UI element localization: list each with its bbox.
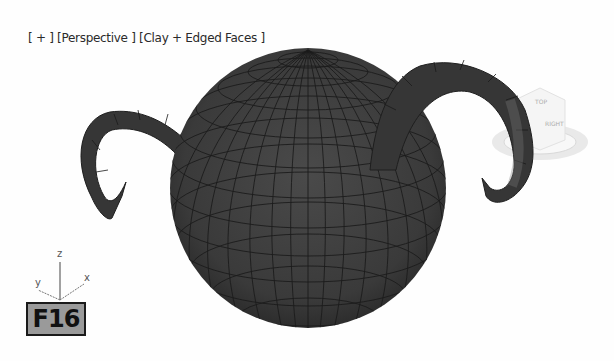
axis-x-label: x (84, 272, 90, 283)
axis-y-label: y (35, 277, 41, 288)
figure-number-badge: F16 (26, 302, 86, 336)
viewcube-side-label[interactable]: RIGHT (545, 120, 564, 127)
axis-z-label: z (57, 248, 62, 259)
scene-geometry[interactable]: TOP RIGHT (0, 0, 614, 361)
perspective-viewport[interactable]: [ + ] [Perspective ] [Clay + Edged Faces… (0, 0, 614, 361)
viewcube-top-label[interactable]: TOP (534, 98, 547, 105)
axis-tripod (38, 262, 84, 300)
